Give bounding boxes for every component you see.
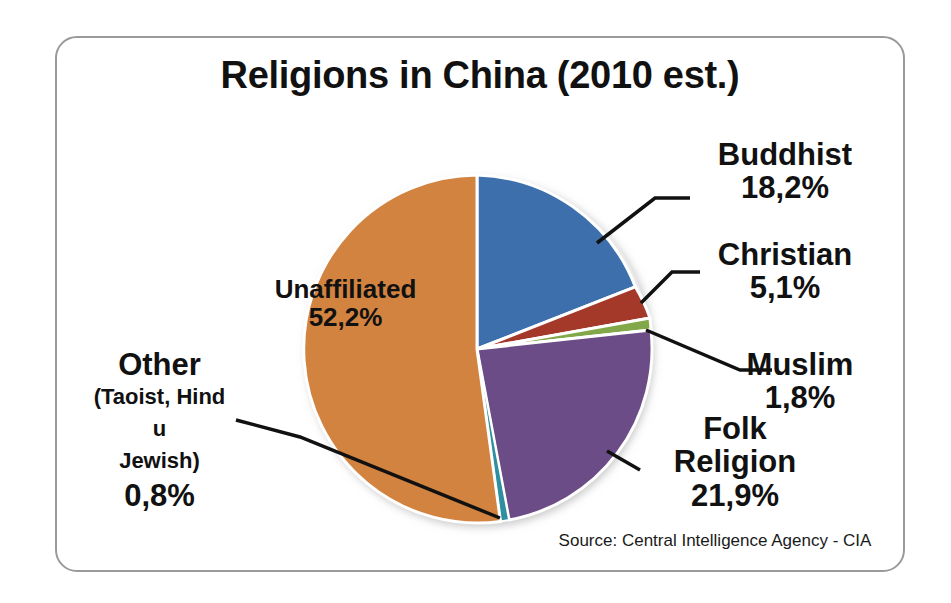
slice-label-other: Other (Taoist, Hind u Jewish) 0,8% [52, 348, 267, 513]
source-attribution: Source: Central Intelligence Agency - CI… [540, 531, 890, 551]
slice-label-unaffiliated: Unaffiliated 52,2% [228, 275, 463, 331]
leader-line-buddhist [597, 198, 690, 243]
slice-label-folk-religion: Folk Religion 21,9% [640, 412, 830, 512]
slice-label-muslim-name: Muslim [700, 348, 900, 381]
slice-label-muslim: Muslim 1,8% [700, 348, 900, 415]
slice-label-buddhist: Buddhist 18,2% [690, 138, 880, 205]
slice-label-folk-religion-name-line2: Religion [640, 445, 830, 478]
slice-label-folk-religion-name-line1: Folk [640, 412, 830, 445]
slice-label-christian-name: Christian [690, 238, 880, 271]
slice-label-buddhist-value: 18,2% [690, 171, 880, 204]
slice-label-unaffiliated-name: Unaffiliated [228, 275, 463, 303]
slice-label-other-sub-line3: Jewish) [52, 445, 267, 477]
slice-label-other-value: 0,8% [52, 479, 267, 512]
slice-label-buddhist-name: Buddhist [690, 138, 880, 171]
slice-label-folk-religion-value: 21,9% [640, 479, 830, 512]
slice-label-christian: Christian 5,1% [690, 238, 880, 305]
pie-slice-unaffiliated[interactable] [304, 175, 501, 523]
slice-label-other-sub-line2: u [52, 413, 267, 445]
slice-label-other-name: Other [52, 348, 267, 381]
slice-label-muslim-value: 1,8% [700, 381, 900, 414]
slice-label-other-sub-line1: (Taoist, Hind [52, 381, 267, 413]
slice-label-unaffiliated-value: 52,2% [228, 303, 463, 331]
chart-canvas: Religions in China (2010 est.) [0, 0, 951, 603]
slice-label-christian-value: 5,1% [690, 271, 880, 304]
